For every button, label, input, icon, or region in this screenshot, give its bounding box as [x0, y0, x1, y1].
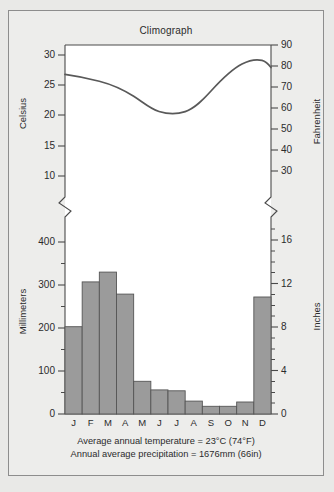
celsius-axis-title: Celsius	[17, 84, 28, 144]
bar-oct	[220, 406, 237, 414]
month-label-apr: A	[116, 417, 134, 428]
climograph-figure: Climograph	[8, 10, 324, 476]
fahrenheit-tick-50: 50	[281, 123, 292, 134]
bar-aug	[185, 401, 202, 414]
fahrenheit-tick-90: 90	[281, 39, 292, 50]
bar-mar	[99, 272, 116, 414]
bar-jan	[65, 327, 82, 414]
millimeters-tick-200: 200	[23, 322, 55, 333]
bar-may	[134, 381, 151, 414]
millimeters-axis-title: Millimeters	[17, 277, 28, 347]
month-label-oct: O	[219, 417, 237, 428]
month-label-nov: N	[236, 417, 254, 428]
month-label-aug: A	[185, 417, 203, 428]
millimeters-tick-100: 100	[23, 365, 55, 376]
celsius-tick-15: 15	[29, 140, 55, 151]
fahrenheit-tick-70: 70	[281, 81, 292, 92]
caption-temperature: Average annual temperature = 23°C (74°F)	[9, 435, 323, 448]
inches-tick-16: 16	[281, 234, 292, 245]
celsius-tick-20: 20	[29, 109, 55, 120]
millimeters-tick-300: 300	[23, 279, 55, 290]
celsius-tick-30: 30	[29, 49, 55, 60]
month-label-may: M	[133, 417, 151, 428]
fahrenheit-tick-30: 30	[281, 165, 292, 176]
bar-dec	[254, 297, 271, 414]
bar-nov	[237, 402, 254, 414]
month-label-jan: J	[65, 417, 83, 428]
millimeters-tick-0: 0	[23, 408, 55, 419]
bar-sep	[202, 406, 219, 414]
millimeters-major-ticks	[58, 242, 65, 414]
fahrenheit-ticks	[271, 45, 278, 171]
month-label-dec: D	[253, 417, 271, 428]
celsius-tick-10: 10	[29, 170, 55, 181]
fahrenheit-tick-40: 40	[281, 144, 292, 155]
summary-caption: Average annual temperature = 23°C (74°F)…	[9, 435, 323, 460]
inches-major-ticks	[271, 240, 278, 414]
fahrenheit-axis-title: Fahrenheit	[311, 87, 322, 157]
bar-apr	[117, 294, 134, 414]
month-label-feb: F	[82, 417, 100, 428]
bar-jul	[168, 391, 185, 414]
month-label-jul: J	[168, 417, 186, 428]
millimeters-tick-400: 400	[23, 236, 55, 247]
inches-tick-8: 8	[281, 321, 287, 332]
inches-axis-title: Inches	[311, 289, 322, 344]
fahrenheit-tick-60: 60	[281, 102, 292, 113]
celsius-tick-25: 25	[29, 79, 55, 90]
climograph-plot	[9, 11, 325, 477]
month-label-jun: J	[150, 417, 168, 428]
inches-tick-4: 4	[281, 365, 287, 376]
bar-feb	[82, 282, 99, 414]
caption-precipitation: Annual average precipitation = 1676mm (6…	[9, 448, 323, 461]
month-label-mar: M	[99, 417, 117, 428]
bar-jun	[151, 390, 168, 414]
month-label-sep: S	[202, 417, 220, 428]
inches-tick-0: 0	[281, 408, 287, 419]
inches-minor-ticks	[271, 229, 275, 403]
inches-tick-12: 12	[281, 278, 292, 289]
celsius-ticks	[58, 55, 65, 176]
fahrenheit-tick-80: 80	[281, 60, 292, 71]
